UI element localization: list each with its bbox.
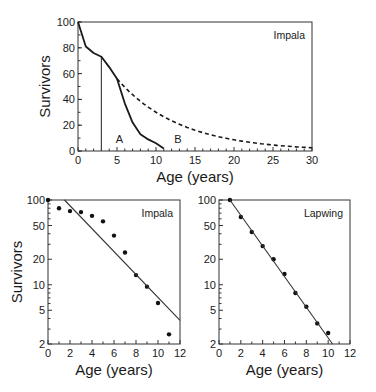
y-tick-label: 2 xyxy=(210,338,216,350)
x-tick-label: 8 xyxy=(133,347,139,359)
x-tick-label: 10 xyxy=(152,347,164,359)
x-tick-label: 2 xyxy=(67,347,73,359)
species-label: Impala xyxy=(273,29,305,41)
x-tick-label: 4 xyxy=(260,347,266,359)
chart-impala-log: 02468101225102050100Age (years)Survivors… xyxy=(8,194,186,378)
y-tick-label: 100 xyxy=(198,194,216,206)
data-point xyxy=(167,332,171,336)
species-label: Impala xyxy=(141,207,173,219)
y-tick-label: 100 xyxy=(57,16,75,28)
data-point xyxy=(79,210,83,214)
x-tick-label: 6 xyxy=(111,347,117,359)
data-point xyxy=(90,214,94,218)
data-point xyxy=(68,209,72,213)
x-tick-label: 0 xyxy=(216,347,222,359)
y-tick-label: 5 xyxy=(210,304,216,316)
y-tick-label: 5 xyxy=(39,304,45,316)
chart-lapwing-log: 02468101225102050100Age (years)Lapwing xyxy=(198,194,356,378)
x-tick-label: 12 xyxy=(174,347,186,359)
y-tick-label: 20 xyxy=(204,253,216,265)
data-point xyxy=(46,198,50,202)
y-axis-label: Survivors xyxy=(36,55,53,118)
y-tick-label: 100 xyxy=(27,194,45,206)
data-point xyxy=(112,233,116,237)
x-tick-label: 20 xyxy=(228,154,240,166)
x-tick-label: 10 xyxy=(322,347,334,359)
plot-frame xyxy=(48,200,180,344)
y-tick-label: 80 xyxy=(63,42,75,54)
region-label-a: A xyxy=(116,133,124,145)
data-point xyxy=(101,219,105,223)
x-tick-label: 0 xyxy=(45,347,51,359)
region-label-b: B xyxy=(174,133,181,145)
curve-a-solid xyxy=(78,22,164,148)
x-tick-label: 30 xyxy=(306,154,318,166)
x-tick-label: 10 xyxy=(150,154,162,166)
data-point xyxy=(57,206,61,210)
x-tick-label: 12 xyxy=(344,347,356,359)
x-tick-label: 6 xyxy=(281,347,287,359)
y-tick-label: 40 xyxy=(63,93,75,105)
regression-line xyxy=(230,200,333,344)
x-tick-label: 15 xyxy=(189,154,201,166)
x-tick-label: 4 xyxy=(89,347,95,359)
y-tick-label: 0 xyxy=(69,145,75,157)
data-point xyxy=(156,301,160,305)
x-axis-label: Age (years) xyxy=(156,168,234,185)
y-tick-label: 50 xyxy=(33,220,45,232)
y-tick-label: 20 xyxy=(63,119,75,131)
x-tick-label: 0 xyxy=(75,154,81,166)
species-label: Lapwing xyxy=(304,207,343,219)
x-tick-label: 25 xyxy=(267,154,279,166)
data-point xyxy=(123,250,127,254)
x-axis-label: Age (years) xyxy=(246,361,324,378)
x-tick-label: 8 xyxy=(303,347,309,359)
y-axis-label: Survivors xyxy=(8,241,25,304)
y-tick-label: 10 xyxy=(204,279,216,291)
survivorship-figure: 051015202530020406080100Age (years)Survi… xyxy=(0,0,376,392)
x-tick-label: 2 xyxy=(238,347,244,359)
y-tick-label: 10 xyxy=(33,279,45,291)
chart-impala-linear: 051015202530020406080100Age (years)Survi… xyxy=(36,16,318,185)
x-axis-label: Age (years) xyxy=(75,361,153,378)
plot-frame xyxy=(78,22,312,151)
data-point xyxy=(326,331,330,335)
y-tick-label: 60 xyxy=(63,68,75,80)
x-tick-label: 5 xyxy=(114,154,120,166)
y-tick-label: 50 xyxy=(204,220,216,232)
y-tick-label: 2 xyxy=(39,338,45,350)
y-tick-label: 20 xyxy=(33,253,45,265)
